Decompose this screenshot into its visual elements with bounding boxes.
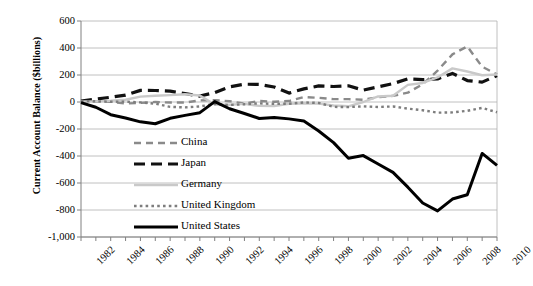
legend-label: United Kingdom	[181, 198, 255, 210]
legend-swatch-united-kingdom	[133, 198, 179, 210]
y-axis-tick-label: -800	[29, 205, 75, 215]
legend-swatch-china	[133, 135, 179, 147]
legend-label: China	[181, 135, 207, 147]
y-axis-tick-label: 600	[29, 16, 75, 26]
y-axis-tick-label: -600	[29, 178, 75, 188]
y-axis-tick-label: -200	[29, 124, 75, 134]
legend-swatch-germany	[133, 177, 179, 189]
chart-legend: ChinaJapanGermanyUnited KingdomUnited St…	[133, 130, 255, 235]
legend-item[interactable]: Germany	[133, 172, 255, 193]
legend-swatch-united-states	[133, 219, 179, 231]
legend-swatch-japan	[133, 156, 179, 168]
y-axis-tick-label: 200	[29, 70, 75, 80]
legend-item[interactable]: China	[133, 130, 255, 151]
y-axis-tick-label: -400	[29, 151, 75, 161]
legend-item[interactable]: United States	[133, 214, 255, 235]
legend-label: United States	[181, 219, 240, 231]
legend-label: Japan	[181, 156, 206, 168]
legend-item[interactable]: United Kingdom	[133, 193, 255, 214]
y-axis-tick-label: 400	[29, 43, 75, 53]
legend-item[interactable]: Japan	[133, 151, 255, 172]
legend-label: Germany	[181, 177, 222, 189]
y-axis-tick-label: -1,000	[29, 232, 75, 242]
y-axis-tick-label: 0	[29, 97, 75, 107]
